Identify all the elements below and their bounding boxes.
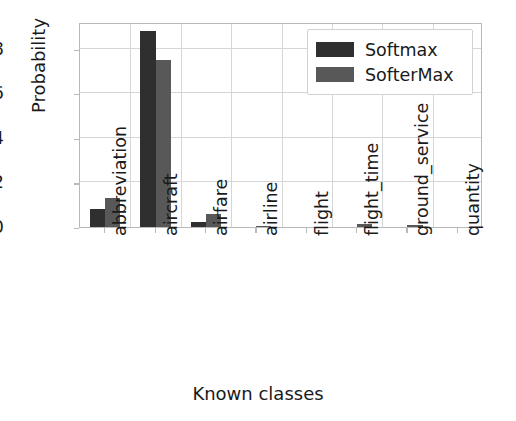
x-tick-label-quantity: quantity [464, 163, 482, 236]
y-tick-mark-0 [74, 228, 79, 229]
y-tick-label-0: 0.0 [0, 219, 4, 237]
legend-label-softermax: SofterMax [365, 65, 454, 85]
y-tick-label-1: 0.2 [0, 174, 4, 192]
y-tick-label-3: 0.6 [0, 85, 4, 103]
gridline-x-1 [130, 24, 131, 227]
y-tick-label-4: 0.8 [0, 41, 4, 59]
legend-item-softermax[interactable]: SofterMax [316, 62, 464, 87]
x-tick-label-ground_service: ground_service [413, 103, 431, 236]
x-tick-mark-quantity [457, 228, 458, 233]
x-tick-label-airline: airline [262, 182, 280, 236]
figure-canvas: Probability 0.00.20.40.60.8 abbreviation… [0, 0, 516, 421]
chart-legend[interactable]: Softmax SofterMax [307, 29, 473, 95]
gridline-x-4 [282, 24, 283, 227]
x-tick-mark-aircraft [155, 228, 156, 233]
y-tick-label-2: 0.4 [0, 130, 4, 148]
legend-item-softmax[interactable]: Softmax [316, 37, 464, 62]
x-tick-mark-flight [306, 228, 307, 233]
x-tick-mark-airline [255, 228, 256, 233]
x-tick-label-flight_time: flight_time [363, 143, 381, 236]
x-tick-mark-flight_time [356, 228, 357, 233]
x-tick-mark-airfare [205, 228, 206, 233]
x-axis-label: Known classes [0, 383, 516, 404]
legend-swatch-icon-softmax [316, 42, 354, 57]
bar-abbreviation-softmax [90, 209, 105, 227]
bar-airfare-softmax [191, 222, 206, 227]
gridline-x-3 [231, 24, 232, 227]
x-tick-label-aircraft: aircraft [162, 173, 180, 236]
x-tick-label-flight: flight [313, 191, 331, 236]
x-tick-label-airfare: airfare [212, 179, 230, 236]
legend-label-softmax: Softmax [365, 40, 438, 60]
x-tick-mark-ground_service [406, 228, 407, 233]
legend-swatch-icon-softermax [316, 67, 354, 82]
bar-aircraft-softmax [140, 31, 155, 227]
x-tick-label-abbreviation: abbreviation [111, 126, 129, 236]
x-tick-mark-abbreviation [104, 228, 105, 233]
